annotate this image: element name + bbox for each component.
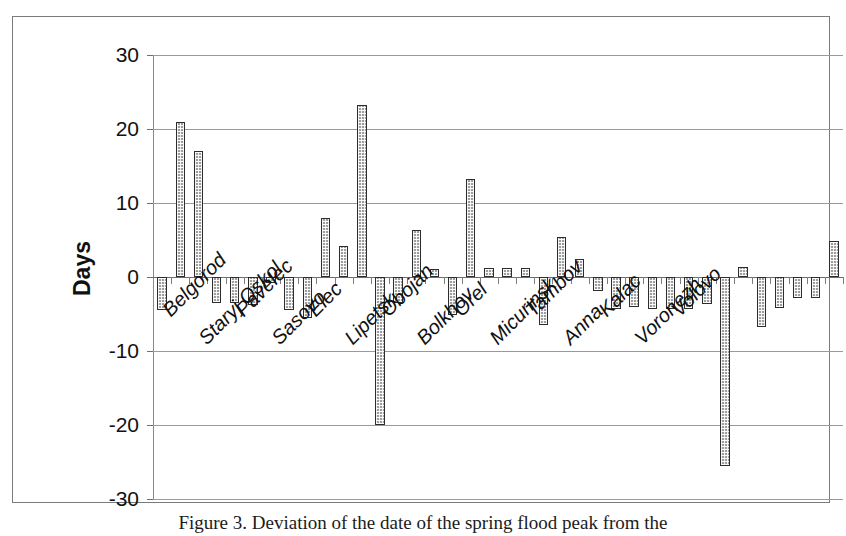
y-tick-mark [147,203,153,204]
bar [212,277,221,303]
x-tick-mark [698,277,699,284]
bar [593,277,602,291]
bar [430,269,439,277]
bar [684,277,693,309]
y-tick-mark [147,351,153,352]
x-tick-mark [643,277,644,284]
gridline [153,203,843,204]
x-tick-mark [661,277,662,284]
x-tick-mark [807,277,808,284]
gridline [153,129,843,130]
bar [412,230,421,277]
x-tick-mark [335,277,336,284]
x-tick-mark [189,277,190,284]
bar [539,277,548,325]
x-tick-mark [462,277,463,284]
y-tick-label-text: 0 [127,265,139,289]
bar [738,267,747,277]
y-tick-label-text: 20 [116,117,139,141]
bar [648,277,657,309]
y-tick-mark [147,277,153,278]
gridline [153,55,843,56]
y-tick-label-text: 10 [116,191,139,215]
x-tick-mark [389,277,390,284]
x-tick-mark [734,277,735,284]
x-tick-mark [825,277,826,284]
x-tick-mark [552,277,553,284]
bar [284,277,293,310]
y-axis-title: Days [69,241,96,296]
bar [375,277,384,425]
x-tick-mark [226,277,227,284]
bar [521,268,530,277]
bar [321,218,330,277]
x-tick-mark [680,277,681,284]
bar [230,277,239,303]
bar [775,277,784,308]
x-tick-mark [425,277,426,284]
x-tick-mark [589,277,590,284]
x-tick-mark [789,277,790,284]
x-tick-mark [843,277,844,284]
bar [194,151,203,277]
bar [629,277,638,307]
bar [757,277,766,327]
gridline [153,351,843,352]
x-tick-mark [353,277,354,284]
bar [829,241,838,277]
x-tick-mark [480,277,481,284]
x-tick-mark [498,277,499,284]
x-tick-mark [280,277,281,284]
plot-area: 3020100-10-20-30 [153,55,843,499]
x-tick-mark [770,277,771,284]
bar [176,122,185,277]
x-tick-mark [444,277,445,284]
bar [303,277,312,318]
bar [157,277,166,310]
bar [811,277,820,298]
y-tick-label-text: -10 [109,339,139,363]
y-tick-mark [147,425,153,426]
bar [666,277,675,309]
bar [502,268,511,277]
figure-caption: Figure 3. Deviation of the date of the s… [0,512,846,536]
x-tick-mark [516,277,517,284]
x-tick-mark [407,277,408,284]
x-tick-mark [371,277,372,284]
bar [557,237,566,277]
bar [611,277,620,309]
gridline [153,425,843,426]
bar [575,259,584,277]
y-tick-label-text: 30 [116,43,139,67]
x-tick-mark [752,277,753,284]
x-tick-mark [298,277,299,284]
gridline [153,499,843,500]
bar [448,277,457,315]
bar [793,277,802,298]
x-tick-mark [534,277,535,284]
x-tick-mark [316,277,317,284]
x-tick-mark [607,277,608,284]
bar [339,246,348,277]
x-tick-mark [625,277,626,284]
x-tick-mark [244,277,245,284]
y-tick-mark [147,129,153,130]
bar [393,277,402,303]
x-tick-mark [262,277,263,284]
bar [248,277,257,305]
bar [720,277,729,466]
bar [466,179,475,277]
y-tick-mark [147,499,153,500]
x-tick-mark [171,277,172,284]
bar [266,277,275,283]
chart-frame: Days 3020100-10-20-30 BelgorodStaryj Osk… [12,16,830,503]
bar [357,105,366,277]
x-tick-mark [716,277,717,284]
bar [484,268,493,277]
bar [702,277,711,304]
x-tick-mark [571,277,572,284]
x-tick-mark [207,277,208,284]
y-tick-label-text: -20 [109,413,139,437]
figure-container: Days 3020100-10-20-30 BelgorodStaryj Osk… [0,0,846,536]
y-tick-label-text: -30 [109,487,139,511]
